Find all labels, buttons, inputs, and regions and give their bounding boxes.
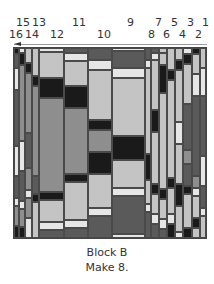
fabric-piece [32, 86, 39, 176]
column-number-7: 7 [155, 17, 162, 28]
sewing-direction-line [14, 44, 207, 45]
fabric-piece [167, 178, 175, 188]
fabric-piece [192, 96, 200, 176]
fabric-piece [64, 86, 88, 108]
fabric-piece [200, 208, 206, 216]
fabric-piece [112, 68, 145, 78]
column-number-2: 2 [195, 29, 202, 40]
fabric-piece [64, 61, 88, 86]
fabric-piece [151, 224, 159, 238]
fabric-piece [200, 96, 206, 156]
column-number-9: 9 [127, 17, 134, 28]
fabric-piece [25, 198, 32, 218]
fabric-piece [151, 194, 159, 214]
fabric-piece [167, 80, 175, 178]
fabric-piece [112, 234, 145, 238]
fabric-piece [192, 74, 200, 96]
column-number-3: 3 [187, 17, 194, 28]
fabric-piece [64, 108, 88, 174]
fabric-piece [175, 60, 183, 70]
fabric-piece [112, 160, 145, 188]
fabric-piece [32, 176, 39, 194]
fabric-piece [151, 132, 159, 184]
fabric-piece [159, 189, 167, 199]
column-number-15: 15 [16, 17, 30, 28]
fabric-piece [39, 230, 64, 238]
fabric-piece [39, 52, 64, 78]
fabric-piece [192, 54, 200, 74]
column-number-16: 16 [9, 29, 23, 40]
fabric-piece [88, 208, 112, 216]
fabric-piece [151, 184, 159, 194]
fabric-piece [64, 228, 88, 238]
fabric-piece [159, 219, 167, 229]
column-number-1: 1 [202, 17, 209, 28]
column-number-5: 5 [171, 17, 178, 28]
fabric-piece [167, 224, 175, 238]
fabric-piece [32, 76, 39, 86]
column-number-13: 13 [32, 17, 46, 28]
fabric-piece [183, 150, 192, 164]
fabric-piece [25, 48, 32, 63]
fabric-piece [25, 73, 32, 133]
fabric-piece [32, 194, 39, 202]
fabric-piece [175, 48, 183, 60]
fabric-piece [200, 216, 206, 238]
fabric-piece [200, 186, 206, 208]
fabric-piece [25, 133, 32, 168]
fabric-piece [112, 78, 145, 136]
fabric-piece [39, 192, 64, 200]
fabric-piece [175, 206, 183, 232]
fabric-piece [183, 194, 192, 228]
fabric-piece [88, 174, 112, 208]
fabric-piece [159, 229, 167, 238]
fabric-piece [200, 156, 206, 186]
fabric-piece [167, 48, 175, 70]
fabric-piece [159, 199, 167, 219]
fabric-piece [183, 186, 192, 194]
fabric-piece [25, 190, 32, 198]
fabric-piece [112, 196, 145, 234]
fabric-piece [192, 196, 200, 218]
fabric-piece [151, 110, 159, 132]
fabric-piece [192, 228, 200, 238]
fabric-piece [88, 48, 112, 60]
fabric-piece [183, 228, 192, 238]
fabric-piece [151, 53, 159, 60]
column-number-6: 6 [163, 29, 170, 40]
fabric-piece [64, 174, 88, 182]
fabric-piece [175, 122, 183, 144]
fabric-piece [192, 218, 200, 228]
block-title: Block B [0, 246, 214, 259]
fabric-piece [175, 184, 183, 206]
fabric-piece [39, 78, 64, 98]
fabric-piece [64, 53, 88, 61]
fabric-piece [39, 98, 64, 192]
fabric-piece [192, 188, 200, 196]
fabric-piece [151, 60, 159, 110]
fabric-piece [112, 136, 145, 160]
column-number-14: 14 [25, 29, 39, 40]
fabric-piece [175, 232, 183, 238]
fabric-piece [25, 218, 32, 238]
fabric-piece [88, 152, 112, 174]
column-number-11: 11 [72, 17, 86, 28]
fabric-piece [151, 214, 159, 224]
fabric-piece [39, 200, 64, 222]
fabric-piece [183, 164, 192, 186]
fabric-piece [88, 130, 112, 152]
column-number-12: 12 [50, 29, 64, 40]
fabric-piece [159, 53, 167, 65]
block-subtitle: Make 8. [0, 261, 214, 274]
fabric-piece [183, 104, 192, 150]
fabric-piece [88, 216, 112, 238]
fabric-piece [183, 54, 192, 64]
fabric-piece [159, 93, 167, 189]
fabric-piece [112, 188, 145, 196]
fabric-piece [183, 64, 192, 104]
fabric-piece [200, 68, 206, 96]
fabric-piece [112, 51, 145, 68]
fabric-piece [32, 202, 39, 238]
fabric-piece [159, 65, 167, 93]
column-number-8: 8 [148, 29, 155, 40]
